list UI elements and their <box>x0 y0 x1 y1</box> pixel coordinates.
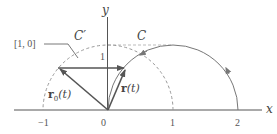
x-tick-1: 1 <box>170 117 175 128</box>
x-tick-labels: −1 0 1 2 <box>38 117 240 128</box>
vector-r0-label: r0(t) <box>48 88 71 103</box>
x-axis-label: x <box>266 102 273 116</box>
x-axis: x <box>14 102 273 116</box>
vector-r-label: r(t) <box>121 82 140 95</box>
curve-c-label: C <box>137 29 146 43</box>
x-tick-0: 0 <box>101 117 106 128</box>
x-tick-2: 2 <box>235 117 240 128</box>
parametric-curve-diagram: x y −1 0 1 2 1 C′ C [1, 0] r0(t) r(t) <box>0 0 277 134</box>
y-tick-1: 1 <box>100 51 105 62</box>
translation-label: [1, 0] <box>14 38 36 49</box>
svg-text:r(t): r(t) <box>121 82 140 95</box>
curve-c-prime-label: C′ <box>74 29 86 43</box>
x-tick-neg1: −1 <box>38 117 49 128</box>
svg-text:r0(t): r0(t) <box>48 88 71 103</box>
y-axis-label: y <box>101 3 109 17</box>
curve-c <box>108 45 238 110</box>
